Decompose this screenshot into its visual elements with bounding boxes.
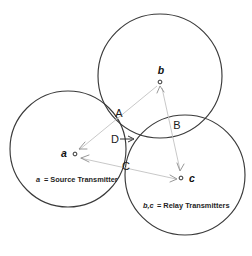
legend-relay-text: = Relay Transmitters — [157, 201, 230, 210]
arrowhead-toward-c-from-b — [177, 163, 184, 171]
node-label-b: b — [158, 64, 165, 76]
node-dot-c — [179, 176, 183, 180]
node-dot-b — [158, 80, 162, 84]
region-d-callout: D — [111, 133, 134, 145]
node-dot-a — [73, 152, 77, 156]
legend-source-transmitter: a = Source Transmitter — [36, 175, 118, 184]
arrowhead-toward-a-from-b — [79, 142, 87, 149]
arrowhead-toward-a-from-c — [81, 155, 89, 162]
venn-diagram-canvas: a b c A B C D a = Source Transmitter b,c… — [0, 0, 252, 256]
legend-relay-transmitters: b,c = Relay Transmitters — [143, 201, 230, 210]
legend-source-text: = Source Transmitter — [44, 175, 118, 184]
region-label-b: B — [173, 119, 180, 131]
coverage-circle-a — [10, 91, 126, 207]
legend-source-symbol: a — [36, 175, 40, 184]
region-label-c: C — [122, 160, 130, 172]
node-label-c: c — [189, 172, 195, 184]
legend-relay-symbol: b,c — [143, 201, 154, 210]
link-arrowheads — [79, 86, 184, 182]
venn-diagram-figure: a b c A B C D a = Source Transmitter b,c… — [0, 0, 252, 256]
node-label-a: a — [61, 147, 67, 159]
region-label-d: D — [111, 133, 119, 145]
region-label-a: A — [115, 107, 123, 119]
